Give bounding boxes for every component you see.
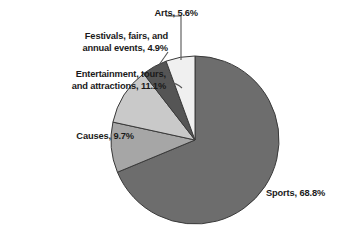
pie-label-sports: Sports, 68.8%	[266, 188, 345, 200]
pie-label-entertainment-line2: and attractions, 11.1%	[4, 81, 166, 93]
leader-line-arts	[166, 16, 181, 60]
pie-label-festivals: Festivals, fairs, and annual events, 4.9…	[36, 31, 168, 54]
pie-label-entertainment-line1: Entertainment, tours,	[4, 69, 166, 81]
pie-label-arts: Arts, 5.6%	[108, 8, 198, 20]
pie-label-causes: Causes, 9.7%	[28, 131, 134, 143]
pie-label-festivals-line2: annual events, 4.9%	[36, 43, 168, 55]
pie-chart-figure: Arts, 5.6% Festivals, fairs, and annual …	[0, 0, 345, 233]
pie-label-festivals-line1: Festivals, fairs, and	[36, 31, 168, 43]
pie-label-entertainment: Entertainment, tours, and attractions, 1…	[4, 69, 166, 92]
